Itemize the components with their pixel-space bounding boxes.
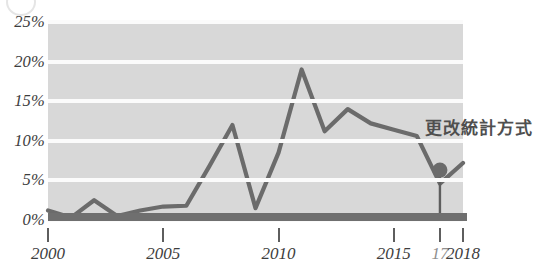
x-axis-tick-label: 2010 <box>262 245 296 262</box>
line-chart: 0%5%10%15%20%25% 2000200520102015172018 … <box>0 0 547 280</box>
x-axis-tick-label: 2018 <box>446 245 480 262</box>
x-axis-tick <box>278 228 280 242</box>
x-axis-tick <box>462 228 464 242</box>
x-axis-tick <box>393 228 395 242</box>
x-axis-tick-label: 2000 <box>31 245 65 262</box>
x-axis-tick <box>439 228 441 242</box>
x-axis-tick-label: 2005 <box>146 245 180 262</box>
annotation-label: 更改統計方式 <box>425 120 533 137</box>
x-axis-tick-label: 2015 <box>377 245 411 262</box>
x-axis: 2000200520102015172018 <box>0 0 547 280</box>
x-axis-tick <box>162 228 164 242</box>
x-axis-tick <box>47 228 49 242</box>
